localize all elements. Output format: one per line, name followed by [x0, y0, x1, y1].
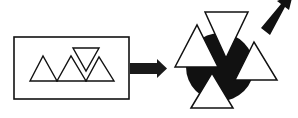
arrow-right-icon [130, 59, 167, 78]
right-panel [175, 12, 277, 108]
left-panel [14, 37, 129, 99]
arrow-diagonal-icon [261, 0, 293, 35]
triangle-row-box [14, 37, 129, 99]
transformation-diagram [0, 0, 298, 118]
